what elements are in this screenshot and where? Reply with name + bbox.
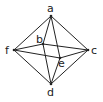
vertex-label-e: e xyxy=(58,57,65,70)
edge-b-c xyxy=(43,44,88,50)
vertex-c xyxy=(87,49,90,52)
vertex-f xyxy=(13,49,16,52)
vertex-label-c: c xyxy=(91,44,97,57)
vertex-label-a: a xyxy=(47,2,54,15)
edges xyxy=(14,16,88,84)
octahedron-diagram: abcdef xyxy=(0,0,103,102)
vertex-label-f: f xyxy=(5,44,10,57)
edge-a-c xyxy=(51,16,88,50)
edge-a-e xyxy=(51,16,60,58)
vertex-label-d: d xyxy=(47,86,54,99)
edge-a-f xyxy=(14,16,51,50)
vertex-a xyxy=(50,15,53,18)
vertex-dots xyxy=(13,15,90,86)
vertex-label-b: b xyxy=(36,33,43,46)
vertex-d xyxy=(50,83,53,86)
